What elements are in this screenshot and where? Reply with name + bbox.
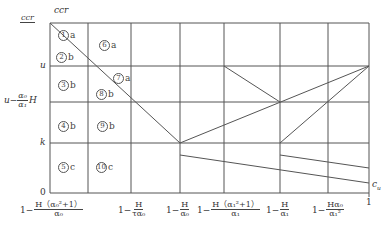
x-den: α₁ (280, 210, 289, 218)
region-label-2: 2b (56, 52, 74, 63)
region-suffix: b (68, 52, 74, 62)
region-label-3: 3b (58, 80, 76, 91)
x-axis-end-label: cu (372, 180, 381, 191)
circled-number: 9 (97, 121, 108, 132)
region-label-4: 4b (58, 121, 76, 132)
rising-line-2 (280, 66, 369, 143)
region-label-6: 6a (99, 40, 116, 51)
circled-number: 8 (96, 89, 107, 100)
circled-number: 10 (96, 162, 107, 173)
region-suffix: a (111, 40, 116, 50)
diag-u-to-mid (224, 66, 280, 102)
x-label-2: 1− Hα₀ (166, 201, 189, 219)
lower-line-1 (180, 155, 369, 183)
lower-line-2 (280, 155, 369, 168)
circled-number: 1 (58, 30, 69, 41)
y-label-post: H (29, 96, 37, 105)
y-label-u: u (40, 61, 46, 70)
y-label-u-alpha-h: u− α₀α₁ H (4, 92, 37, 110)
x-label-5: 1− Hα₀α₁² (312, 201, 344, 219)
y-label-k: k (40, 138, 45, 147)
region-suffix: a (125, 73, 130, 83)
region-suffix: c (70, 162, 75, 172)
circled-number: 2 (56, 52, 67, 63)
region-label-9: 9b (97, 121, 115, 132)
circled-number: 6 (99, 40, 110, 51)
x-pre: 1− (118, 205, 131, 215)
x-pre: 1− (20, 205, 33, 215)
x-label-0: 1− H（α₀²+1）α₀ (20, 201, 83, 219)
region-suffix: c (108, 162, 113, 172)
x-den: α₁ (231, 210, 240, 218)
x-den: τα₀ (132, 210, 145, 218)
region-label-1: 1a (58, 30, 75, 41)
y-label-den: α₁ (18, 101, 27, 109)
circled-number: 7 (113, 73, 124, 84)
x-label-3: 1− H（α₁²+1）α₁ (197, 201, 260, 219)
region-suffix: b (70, 121, 76, 131)
region-suffix: b (109, 121, 115, 131)
x-pre: 1− (197, 205, 210, 215)
phase-diagram: ccr ccrccr u u− α₀α₁ H k 0 1a2b3b4b5c6a7… (0, 0, 391, 234)
y-label-pre: u− (4, 96, 17, 105)
region-suffix: b (70, 80, 76, 90)
top-label-ccr: ccr (54, 6, 68, 15)
x-den: α₀ (54, 210, 63, 218)
rising-line-1 (180, 66, 369, 143)
region-label-7: 7a (113, 73, 130, 84)
x-pre: 1− (266, 205, 279, 215)
x-pre: 1− (166, 205, 179, 215)
region-suffix: a (70, 30, 75, 40)
x-label-6: 1 (366, 197, 372, 207)
x-label-4: 1− Hα₁ (266, 201, 289, 219)
y-frac-num: ccr (20, 14, 35, 23)
x-label-1: 1− Hτα₀ (118, 201, 145, 219)
region-label-8: 8b (96, 89, 114, 100)
circled-number: 4 (58, 121, 69, 132)
region-label-5: 5c (58, 162, 75, 173)
x-pre: 1− (312, 205, 325, 215)
circled-number: 3 (58, 80, 69, 91)
circled-number: 5 (58, 162, 69, 173)
x-den: α₁² (329, 210, 341, 218)
y-label-zero: 0 (40, 188, 46, 197)
y-axis-top-fraction: ccrccr (20, 14, 35, 23)
region-label-10: 10c (96, 162, 113, 173)
x-den: α₀ (180, 210, 189, 218)
region-suffix: b (108, 89, 114, 99)
